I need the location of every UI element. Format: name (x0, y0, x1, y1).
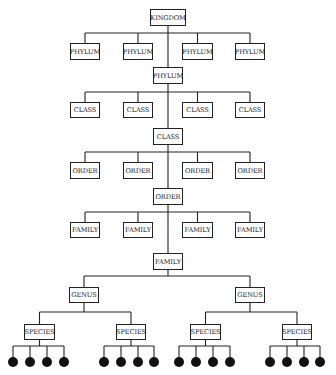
class-node: CLASS (70, 102, 100, 118)
species-node: SPECIES (116, 324, 146, 340)
individual-organism-dot (299, 357, 309, 367)
individual-organism-dot (59, 357, 69, 367)
individual-organism-dot (174, 357, 184, 367)
family-node: FAMILY (182, 222, 213, 238)
genus-node: GENUS (69, 287, 99, 303)
individual-organism-dot (282, 357, 292, 367)
family-node: FAMILY (235, 222, 265, 238)
phylum-node: PHYLUM (182, 43, 213, 60)
individual-organism-dot (99, 357, 109, 367)
genus-node: GENUS (235, 287, 265, 303)
individual-organism-dot (116, 357, 126, 367)
individual-organism-dot (208, 357, 218, 367)
order-node: ORDER (182, 162, 213, 179)
individual-organism-dot (42, 357, 52, 367)
individual-organism-dot (8, 357, 18, 367)
individual-organism-dot (191, 357, 201, 367)
individual-organism-dot (315, 357, 325, 367)
individual-organism-dot (133, 357, 143, 367)
order-node-selected: ORDER (153, 188, 183, 205)
species-node: SPECIES (24, 324, 55, 340)
individual-organism-dot (149, 357, 159, 367)
individual-organism-dot (25, 357, 35, 367)
order-node: ORDER (123, 162, 153, 179)
class-node: CLASS (235, 102, 265, 118)
individual-organism-dot (265, 357, 275, 367)
species-node: SPECIES (190, 324, 221, 340)
family-node: FAMILY (70, 222, 100, 238)
family-node-selected: FAMILY (153, 253, 183, 270)
class-node-selected: CLASS (153, 128, 183, 145)
taxonomy-diagram: KINGDOMPHYLUMPHYLUMPHYLUMPHYLUMPHYLUMCLA… (0, 0, 336, 375)
class-node: CLASS (182, 102, 213, 118)
order-node: ORDER (235, 162, 265, 179)
kingdom-node: KINGDOM (150, 9, 186, 26)
phylum-node: PHYLUM (70, 43, 100, 60)
individual-organism-dot (225, 357, 235, 367)
phylum-node: PHYLUM (123, 43, 153, 60)
species-node: SPECIES (282, 324, 312, 340)
family-node: FAMILY (123, 222, 153, 238)
class-node: CLASS (123, 102, 153, 118)
phylum-node: PHYLUM (235, 43, 265, 60)
order-node: ORDER (70, 162, 100, 179)
phylum-node-selected: PHYLUM (153, 67, 183, 84)
